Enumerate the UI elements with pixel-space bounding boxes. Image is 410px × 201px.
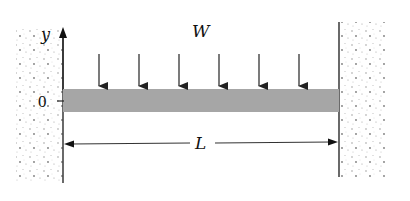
origin-label: 0 [38, 92, 47, 111]
right-wall-support [339, 22, 385, 177]
dimension-arrow-left-icon [64, 141, 74, 148]
load-label: W [192, 21, 211, 41]
y-axis-label: y [40, 25, 51, 44]
dimension-arrow-right-icon [328, 139, 338, 146]
beam-diagram: y 0 W L [0, 0, 410, 201]
distributed-load-arrows [99, 54, 299, 86]
beam [63, 89, 339, 112]
length-label: L [194, 133, 206, 153]
